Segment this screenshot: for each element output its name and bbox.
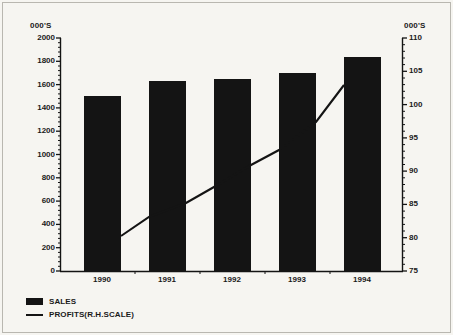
left-tick-1200: 1200 bbox=[21, 126, 55, 135]
chart-page: 000'S 000'S 2000 1800 1600 1400 1200 100… bbox=[0, 0, 453, 335]
left-tick-1400: 1400 bbox=[21, 103, 55, 112]
left-tick-2000: 2000 bbox=[21, 33, 55, 42]
left-axis-unit-label: 000'S bbox=[30, 21, 52, 30]
right-tick-110: 110 bbox=[409, 33, 431, 42]
chart-legend: SALES PROFITS(R.H.SCALE) bbox=[26, 295, 134, 321]
left-tick-1800: 1800 bbox=[21, 56, 55, 65]
right-tick-100: 100 bbox=[409, 100, 431, 109]
legend-line-swatch-icon bbox=[26, 314, 43, 316]
legend-item-profits: PROFITS(R.H.SCALE) bbox=[26, 308, 134, 321]
bar-series-sales bbox=[84, 57, 381, 271]
left-tick-1600: 1600 bbox=[21, 80, 55, 89]
combo-chart-canvas bbox=[0, 0, 453, 335]
right-tick-105: 105 bbox=[409, 66, 431, 75]
x-tick-1991: 1991 bbox=[147, 275, 187, 284]
left-tick-1000: 1000 bbox=[21, 150, 55, 159]
right-tick-85: 85 bbox=[409, 199, 431, 208]
left-tick-600: 600 bbox=[21, 196, 55, 205]
bar-1991 bbox=[149, 81, 186, 271]
left-tick-0: 0 bbox=[21, 266, 55, 275]
right-axis-unit-label: 000'S bbox=[404, 21, 426, 30]
x-tick-1994: 1994 bbox=[342, 275, 382, 284]
right-tick-75: 75 bbox=[409, 266, 431, 275]
right-tick-95: 95 bbox=[409, 133, 431, 142]
legend-item-sales: SALES bbox=[26, 295, 134, 308]
x-tick-1990: 1990 bbox=[82, 275, 122, 284]
bar-1990 bbox=[84, 96, 121, 271]
x-tick-1993: 1993 bbox=[277, 275, 317, 284]
bar-1993 bbox=[279, 73, 316, 271]
legend-label-profits: PROFITS(R.H.SCALE) bbox=[49, 310, 134, 319]
right-tick-90: 90 bbox=[409, 166, 431, 175]
left-tick-800: 800 bbox=[21, 173, 55, 182]
x-tick-1992: 1992 bbox=[212, 275, 252, 284]
bar-1994 bbox=[344, 57, 381, 271]
legend-bar-swatch-icon bbox=[26, 298, 43, 305]
legend-label-sales: SALES bbox=[49, 297, 76, 306]
left-tick-200: 200 bbox=[21, 243, 55, 252]
left-tick-400: 400 bbox=[21, 219, 55, 228]
right-tick-80: 80 bbox=[409, 233, 431, 242]
